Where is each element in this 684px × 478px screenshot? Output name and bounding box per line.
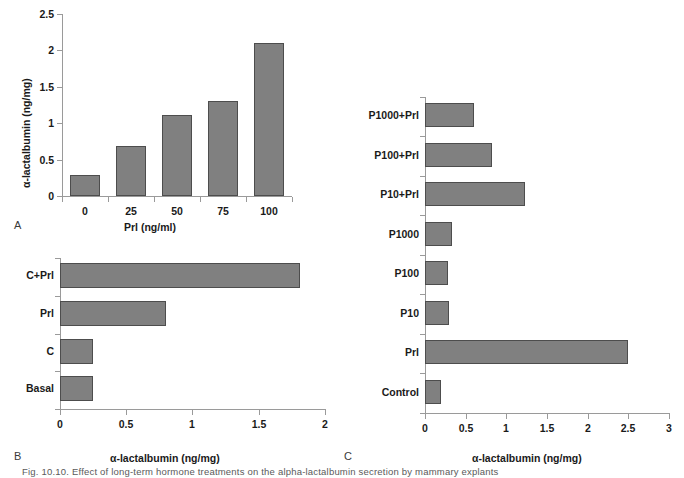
bar-panel-b-2 <box>60 301 166 326</box>
panel-c-x-tick <box>547 414 548 419</box>
panel-c-x-ticklabel: 2 <box>568 422 608 434</box>
panel-c-catlabel-prl: Prl <box>342 346 419 358</box>
panel-b-x-ticklabel: 1 <box>172 418 212 430</box>
panel-a-y-tick <box>57 87 62 88</box>
panel-c-x-ticklabel: 1.5 <box>527 422 567 434</box>
panel-a-y-ticklabel: 0.5 <box>31 154 54 166</box>
panel-b-x-axis-title: α-lactalbumin (ng/mg) <box>110 452 220 464</box>
panel-c-catlabel-p100prl: P100+Prl <box>342 149 419 161</box>
panel-a-x-ticklabel: 75 <box>203 205 243 217</box>
bar-panel-a-3 <box>208 101 238 196</box>
panel-a-x-axis-line <box>62 196 292 197</box>
panel-c-x-tick <box>588 414 589 419</box>
panel-c-plot-area: P1000+Prl P100+Prl P10+Prl P1000 P100 P1… <box>342 0 684 430</box>
panel-b-y-tick <box>55 371 60 372</box>
panel-a: α-lactalbumin (ng/mg) 0 0.5 1 1.5 2 2.5 <box>0 0 342 232</box>
panel-b-y-tick <box>55 258 60 259</box>
panel-a-y-tick <box>57 123 62 124</box>
panel-c-y-tick <box>420 255 425 256</box>
panel-b-x-ticklabel: 2 <box>305 418 345 430</box>
panel-a-y-tick <box>57 14 62 15</box>
panel-a-x-tick <box>292 197 293 202</box>
panel-c-catlabel-p1000prl: P1000+Prl <box>342 109 419 121</box>
panel-a-x-tick <box>246 197 247 202</box>
panel-a-plot-area: 0 0.5 1 1.5 2 2.5 0 25 50 75 100 <box>0 0 342 232</box>
bar-panel-c-5 <box>425 182 525 206</box>
panel-b-x-axis-line <box>60 409 326 410</box>
panel-a-x-ticklabel: 100 <box>249 205 289 217</box>
panel-c-y-tick <box>420 176 425 177</box>
bar-panel-c-7 <box>425 103 474 127</box>
panel-a-y-ticklabel: 2 <box>40 44 54 56</box>
panel-c-y-tick <box>420 334 425 335</box>
panel-c-catlabel-p10prl: P10+Prl <box>342 188 419 200</box>
panel-a-y-ticklabel: 2.5 <box>31 8 54 20</box>
bar-panel-b-1 <box>60 339 93 364</box>
bar-panel-c-1 <box>425 340 628 364</box>
panel-a-x-tick <box>200 197 201 202</box>
panel-c-y-tick <box>420 294 425 295</box>
panel-c-x-axis-title: α-lactalbumin (ng/mg) <box>472 452 582 464</box>
bar-panel-a-2 <box>162 115 192 196</box>
figure-caption: Fig. 10.10. Effect of long-term hormone … <box>22 466 672 478</box>
panel-c-y-tick <box>420 97 425 98</box>
panel-c-catlabel-p10: P10 <box>342 307 419 319</box>
panel-a-x-ticklabel: 0 <box>65 205 105 217</box>
panel-c-x-ticklabel: 1 <box>486 422 526 434</box>
panel-c-y-tick <box>420 136 425 137</box>
bar-panel-c-4 <box>425 222 452 246</box>
panel-a-x-tick <box>154 197 155 202</box>
panel-b-x-tick <box>126 410 127 415</box>
panel-c-x-ticklabel: 2.5 <box>608 422 648 434</box>
panel-b-letter: B <box>14 450 21 462</box>
panel-c-x-tick <box>669 414 670 419</box>
bar-panel-b-0 <box>60 376 93 401</box>
panel-c: P1000+Prl P100+Prl P10+Prl P1000 P100 P1… <box>342 0 684 478</box>
panel-c-x-tick <box>425 414 426 419</box>
panel-b-y-tick <box>55 296 60 297</box>
bar-panel-c-6 <box>425 143 492 167</box>
panel-c-x-ticklabel: 3 <box>649 422 684 434</box>
panel-b-x-tick <box>259 410 260 415</box>
panel-a-letter: A <box>14 219 21 231</box>
panel-a-x-tick <box>62 197 63 202</box>
panel-c-catlabel-p1000: P1000 <box>342 228 419 240</box>
panel-b-catlabel-c: C <box>0 345 54 357</box>
panel-b-x-ticklabel: 0 <box>40 418 80 430</box>
panel-b-y-tick <box>55 334 60 335</box>
panel-b-x-tick <box>192 410 193 415</box>
panel-c-x-tick <box>466 414 467 419</box>
panel-b-x-tick <box>325 410 326 415</box>
bar-panel-c-2 <box>425 301 449 325</box>
panel-b-x-ticklabel: 1.5 <box>239 418 279 430</box>
bar-panel-c-3 <box>425 261 448 285</box>
panel-c-catlabel-control: Control <box>342 386 419 398</box>
panel-a-y-tick <box>57 50 62 51</box>
panel-a-y-axis-line <box>62 14 63 197</box>
bar-panel-a-4 <box>254 43 284 196</box>
panel-a-y-tick <box>57 160 62 161</box>
bar-panel-a-1 <box>116 146 146 196</box>
bar-panel-b-3 <box>60 263 300 288</box>
panel-a-x-ticklabel: 50 <box>157 205 197 217</box>
panel-c-y-tick <box>420 373 425 374</box>
panel-a-x-axis-title: Prl (ng/ml) <box>124 221 176 233</box>
panel-b-x-ticklabel: 0.5 <box>106 418 146 430</box>
bar-panel-c-0 <box>425 380 441 404</box>
panel-c-x-ticklabel: 0.5 <box>446 422 486 434</box>
bar-panel-a-0 <box>70 175 100 196</box>
panel-b-catlabel-basal: Basal <box>0 382 54 394</box>
panel-b-catlabel-prl: Prl <box>0 307 54 319</box>
panel-c-y-tick <box>420 215 425 216</box>
panel-a-y-ticklabel: 0 <box>40 190 54 202</box>
panel-c-x-ticklabel: 0 <box>405 422 445 434</box>
panel-b-plot-area: C+Prl Prl C Basal 0 0.5 1 1.5 2 <box>0 243 342 443</box>
panel-a-x-tick <box>108 197 109 202</box>
panel-a-x-ticklabel: 25 <box>111 205 151 217</box>
panel-c-x-tick <box>506 414 507 419</box>
panel-a-y-ticklabel: 1 <box>40 117 54 129</box>
panel-c-letter: C <box>344 450 352 462</box>
panel-c-x-tick <box>628 414 629 419</box>
panel-c-catlabel-p100: P100 <box>342 267 419 279</box>
panel-a-y-ticklabel: 1.5 <box>31 81 54 93</box>
